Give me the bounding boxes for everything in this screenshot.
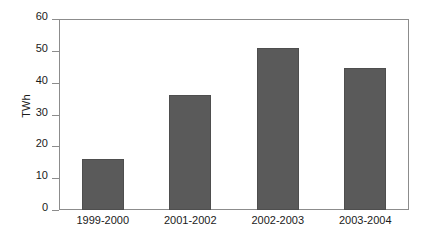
x-axis-tick-label: 2003-2004 [322,214,410,226]
bar [344,68,386,210]
y-axis-title: TWh [20,89,32,123]
y-axis-tick-mark [52,19,59,20]
y-axis-tick-label: 10 [36,170,48,181]
y-axis-tick-mark [52,51,59,52]
bar [169,95,211,210]
x-axis: 1999-20002001-20022002-20032003-2004 [59,214,409,234]
y-axis-tick-mark [52,115,59,116]
y-axis-tick-label: 20 [36,138,48,149]
y-axis-tick-mark [52,210,59,211]
x-axis-tick-label: 1999-2000 [59,214,147,226]
y-axis-tick-mark [52,83,59,84]
y-axis-tick-mark [52,178,59,179]
bars-layer [59,19,409,210]
y-axis-tick-label: 40 [36,75,48,86]
bar [257,48,299,210]
x-axis-tick-label: 2002-2003 [234,214,322,226]
y-axis-tick-label: 30 [36,107,48,118]
bar [82,159,124,210]
y-axis-tick-label: 60 [36,11,48,22]
y-axis-tick-label: 50 [36,43,48,54]
y-axis-tick-mark [52,146,59,147]
bar-chart: 0102030405060 TWh 1999-20002001-20022002… [0,0,428,239]
x-axis-tick-label: 2001-2002 [147,214,235,226]
y-axis-tick-label: 0 [42,202,48,213]
